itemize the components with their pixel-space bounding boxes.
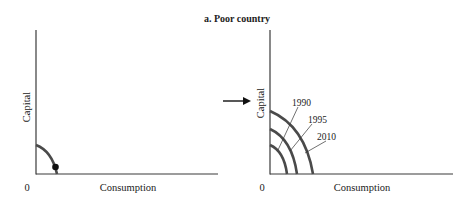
right-panel: 0 Consumption Capital 1990 1995 2010 xyxy=(255,30,453,193)
left-y-axis-label: Capital xyxy=(21,92,32,122)
left-x-axis-label: Consumption xyxy=(100,182,157,193)
curve-label-1995: 1995 xyxy=(308,115,327,125)
left-production-point xyxy=(52,164,59,171)
right-y-axis-label: Capital xyxy=(255,88,266,118)
right-origin-label: 0 xyxy=(259,182,264,193)
curve-label-2010: 2010 xyxy=(317,132,336,142)
right-arrow-icon xyxy=(223,97,251,105)
left-panel: 0 Consumption Capital xyxy=(21,30,218,193)
curve-label-1990: 1990 xyxy=(292,98,311,108)
leader-line-2010 xyxy=(305,141,326,153)
diagram-title: a. Poor country xyxy=(204,13,270,24)
left-origin-label: 0 xyxy=(24,182,29,193)
diagram-canvas: a. Poor country 0 Consumption Capital 0 … xyxy=(0,0,474,203)
right-x-axis-label: Consumption xyxy=(334,182,391,193)
ppf-curve-1995 xyxy=(270,129,297,174)
